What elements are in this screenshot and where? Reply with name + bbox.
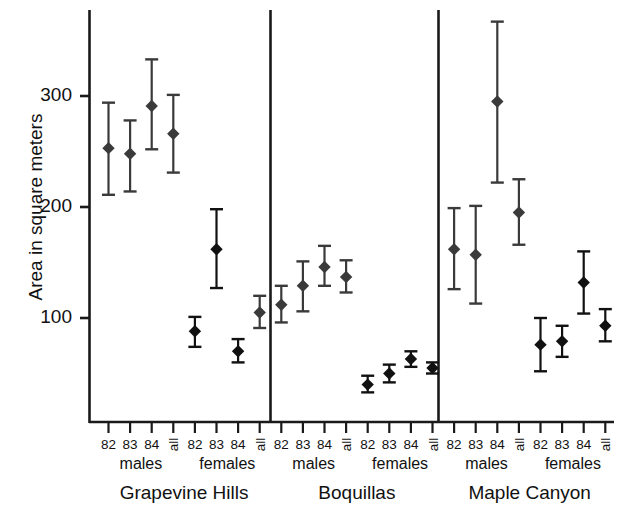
x-tick-label-year: 83 — [291, 437, 315, 452]
data-point-marker — [232, 345, 244, 357]
data-point-group — [318, 246, 331, 286]
y-tick-label: 100 — [22, 306, 72, 328]
data-point-group — [469, 206, 482, 304]
data-point-group — [167, 95, 180, 173]
data-point-group — [512, 179, 525, 244]
data-point-group — [124, 120, 137, 191]
data-point-group — [491, 22, 504, 183]
x-tick-label-year: 84 — [572, 437, 596, 452]
x-axis-ticks — [109, 422, 606, 433]
site-group-label: Grapevine Hills — [94, 482, 274, 504]
sex-group-label: females — [355, 455, 445, 473]
x-tick-label-year: 84 — [485, 437, 509, 452]
x-tick-label-all: all — [339, 433, 354, 457]
data-point-marker — [124, 148, 136, 160]
sex-group-label: males — [96, 455, 186, 473]
data-point-marker — [102, 142, 114, 154]
x-tick-label-all: all — [252, 433, 267, 457]
data-point-marker — [491, 95, 503, 107]
x-tick-label-year: 83 — [205, 437, 229, 452]
data-point-group — [534, 318, 547, 371]
sex-group-label: females — [528, 455, 618, 473]
data-point-group — [340, 260, 353, 292]
y-tick-label: 200 — [22, 195, 72, 217]
data-point-group — [448, 208, 461, 289]
data-point-group — [102, 103, 115, 195]
data-point-marker — [383, 367, 395, 379]
data-point-group — [232, 339, 245, 362]
data-point-marker — [448, 243, 460, 255]
data-point-marker — [362, 378, 374, 390]
data-point-marker — [426, 362, 438, 374]
x-tick-label-year: 84 — [226, 437, 250, 452]
data-point-marker — [146, 100, 158, 112]
data-point-marker — [513, 206, 525, 218]
data-point-group — [253, 296, 266, 328]
data-point-group — [296, 261, 309, 311]
x-tick-label-year: 84 — [140, 437, 164, 452]
data-point-group — [404, 351, 417, 367]
data-point-group — [556, 326, 569, 357]
data-point-marker — [167, 128, 179, 140]
data-point-marker — [318, 261, 330, 273]
sex-group-label: males — [269, 455, 359, 473]
data-point-group — [577, 251, 590, 313]
data-point-group — [188, 317, 201, 347]
x-tick-label-year: 84 — [399, 437, 423, 452]
x-tick-label-all: all — [425, 433, 440, 457]
data-point-marker — [210, 243, 222, 255]
site-group-label: Maple Canyon — [440, 482, 620, 504]
data-point-group — [383, 365, 396, 383]
data-point-group — [426, 362, 439, 374]
site-group-label: Boquillas — [267, 482, 447, 504]
data-point-group — [210, 209, 223, 288]
x-tick-label-year: 82 — [97, 437, 121, 452]
axis-frame — [89, 10, 614, 423]
x-tick-label-year: 82 — [356, 437, 380, 452]
data-point-group — [275, 286, 288, 323]
data-point-marker — [470, 249, 482, 261]
bottom-margin — [0, 515, 625, 523]
data-point-marker — [340, 271, 352, 283]
data-point-marker — [556, 335, 568, 347]
data-point-group — [361, 376, 374, 393]
x-tick-label-all: all — [166, 433, 181, 457]
data-point-marker — [578, 276, 590, 288]
data-point-marker — [254, 306, 266, 318]
x-tick-label-year: 82 — [442, 437, 466, 452]
x-tick-label-year: 84 — [313, 437, 337, 452]
x-tick-label-year: 82 — [529, 437, 553, 452]
data-point-group — [599, 309, 612, 341]
x-tick-label-all: all — [511, 433, 526, 457]
x-tick-label-year: 82 — [183, 437, 207, 452]
data-point-marker — [599, 320, 611, 332]
data-point-marker — [297, 280, 309, 292]
data-point-marker — [534, 338, 546, 350]
data-point-marker — [275, 298, 287, 310]
x-tick-label-all: all — [598, 433, 613, 457]
x-tick-label-year: 83 — [377, 437, 401, 452]
x-tick-label-year: 82 — [269, 437, 293, 452]
data-point-group — [145, 59, 158, 149]
x-tick-label-year: 83 — [550, 437, 574, 452]
y-tick-label: 300 — [22, 84, 72, 106]
sex-group-label: females — [182, 455, 272, 473]
figure-panel: Area in square meters 100200300 828384al… — [0, 0, 625, 523]
x-tick-label-year: 83 — [464, 437, 488, 452]
data-point-marker — [405, 353, 417, 365]
data-point-marker — [189, 325, 201, 337]
data-points-layer — [102, 22, 612, 393]
sex-group-label: males — [442, 455, 532, 473]
x-tick-label-year: 83 — [118, 437, 142, 452]
